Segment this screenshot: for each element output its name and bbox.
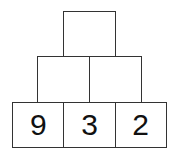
pyramid-bottom-cell-1: 9	[12, 102, 65, 148]
pyramid-middle-cell-1	[37, 56, 90, 103]
pyramid-middle-cell-2	[89, 56, 142, 103]
pyramid-top-cell	[63, 11, 116, 58]
pyramid-bottom-cell-3: 2	[115, 102, 167, 148]
pyramid-bottom-cell-2: 3	[63, 102, 116, 148]
